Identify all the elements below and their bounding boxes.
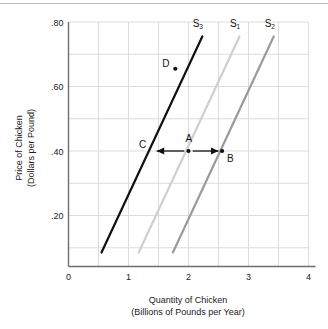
x-axis-subtitle: (Billions of Pounds per Year) — [131, 307, 245, 317]
y-tick-label: .20 — [51, 211, 64, 221]
curve-label-layer: S3S1S2 — [193, 18, 276, 31]
arrow-head — [157, 148, 165, 155]
y-tick-label: .80 — [51, 18, 64, 28]
x-tick-label: 3 — [246, 272, 251, 282]
x-tick-label: 2 — [186, 272, 191, 282]
x-axis-title: Quantity of Chicken — [149, 295, 228, 305]
y-tick-label: .60 — [51, 82, 64, 92]
x-tick-label: 1 — [126, 272, 131, 282]
y-axis-title: Price of Chicken — [14, 115, 24, 181]
point-label-d: D — [162, 58, 169, 69]
curve-label-subscript-s3: 3 — [199, 23, 203, 30]
data-point-b — [220, 149, 224, 153]
point-label-a: A — [186, 133, 193, 144]
arrow-head — [211, 148, 219, 155]
rightward-shift-arrow — [193, 148, 219, 155]
y-tick-label: .40 — [51, 147, 64, 157]
curve-label-subscript-s2: 2 — [271, 23, 275, 30]
data-point-d — [173, 67, 177, 71]
chart-figure: 01234.20.40.60.80 ABCD S3S1S2 Quantity o… — [0, 0, 328, 329]
x-tick-label: 4 — [306, 272, 311, 282]
curve-label-subscript-s1: 1 — [236, 23, 240, 30]
point-label-c: C — [139, 139, 146, 150]
x-tick-label: 0 — [66, 272, 71, 282]
curve-layer — [102, 37, 274, 253]
leftward-shift-arrow — [157, 148, 185, 155]
data-point-a — [186, 149, 190, 153]
supply-curve-chart: 01234.20.40.60.80 ABCD S3S1S2 Quantity o… — [0, 0, 328, 329]
y-axis-subtitle: (Dollars per Pound) — [26, 109, 36, 187]
point-label-b: B — [227, 153, 234, 164]
tick-label-layer: 01234.20.40.60.80 — [51, 18, 311, 282]
